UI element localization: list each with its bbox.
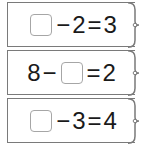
equation-3: − 3 = 4	[8, 99, 135, 142]
equals-sign: =	[88, 109, 102, 133]
equation-1: − 2 = 3	[8, 3, 135, 46]
right-brace-icon	[128, 50, 142, 96]
answer-blank-box[interactable]	[30, 14, 52, 36]
equation-card-2: 8 − = 2	[7, 50, 135, 95]
minus-sign: −	[42, 61, 56, 85]
equals-sign: =	[88, 13, 102, 37]
answer-blank-box[interactable]	[61, 62, 83, 84]
operand: 8	[27, 61, 40, 85]
result: 3	[104, 13, 117, 37]
operand: 2	[72, 13, 85, 37]
minus-sign: −	[56, 13, 70, 37]
result: 4	[104, 109, 117, 133]
equation-card-1: − 2 = 3	[7, 2, 135, 47]
right-brace-icon	[128, 98, 142, 144]
result: 2	[103, 61, 116, 85]
operand: 3	[72, 109, 85, 133]
right-brace-icon	[128, 2, 142, 48]
minus-sign: −	[56, 109, 70, 133]
equation-card-3: − 3 = 4	[7, 98, 135, 143]
equation-2: 8 − = 2	[8, 51, 135, 94]
answer-blank-box[interactable]	[30, 110, 52, 132]
equals-sign: =	[87, 61, 101, 85]
